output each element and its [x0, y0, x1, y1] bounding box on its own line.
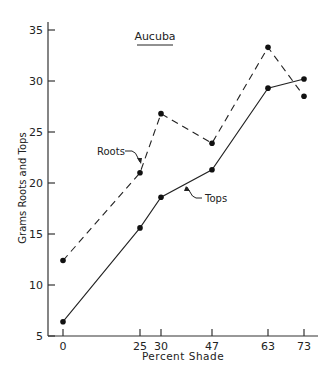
line-chart: Aucuba 5101520253035 02530476373 Grams R… [0, 0, 334, 382]
series-line [63, 79, 304, 322]
y-tick-label: 15 [29, 228, 43, 241]
roots-leader-line [125, 151, 140, 162]
chart-title: Aucuba [134, 30, 175, 43]
y-axis-label: Grams Roots and Tops [17, 132, 28, 243]
x-tick-label: 63 [261, 340, 275, 353]
roots-leader-arrow [137, 158, 142, 164]
data-point [137, 170, 143, 176]
y-tick-label: 25 [29, 126, 43, 139]
data-point [137, 225, 143, 231]
data-point [301, 76, 307, 82]
y-tick-label: 30 [29, 75, 43, 88]
tops-leader-line [187, 187, 202, 198]
x-tick-label: 0 [60, 340, 67, 353]
y-axis-ticks: 5101520253035 [29, 24, 55, 343]
data-point [158, 194, 164, 200]
roots-annotation: Roots [97, 146, 142, 164]
y-tick-label: 20 [29, 177, 43, 190]
data-point [265, 85, 271, 91]
tops-label: Tops [204, 193, 227, 204]
y-tick-label: 5 [36, 330, 43, 343]
data-point [60, 258, 66, 264]
data-point [209, 167, 215, 173]
data-point [158, 111, 164, 117]
tops-annotation: Tops [184, 186, 227, 204]
tops-leader-arrow [184, 186, 190, 191]
data-point [60, 319, 66, 325]
y-tick-label: 35 [29, 24, 43, 37]
x-tick-label: 73 [297, 340, 311, 353]
series-tops [60, 76, 307, 324]
axes [48, 22, 318, 336]
data-point [265, 45, 271, 51]
x-axis-label: Percent Shade [142, 350, 224, 362]
data-point [301, 94, 307, 100]
data-point [209, 140, 215, 146]
y-tick-label: 10 [29, 279, 43, 292]
roots-label: Roots [97, 146, 125, 157]
